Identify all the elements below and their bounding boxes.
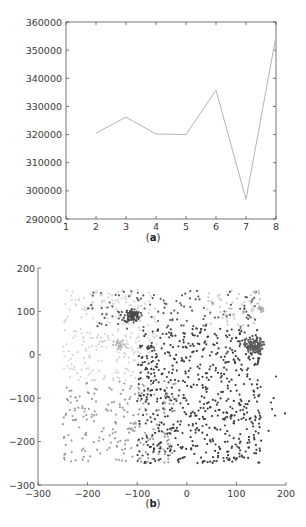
cluster-light-cluster-top-right [257,305,264,313]
y-tick-label: 300000 [26,185,62,196]
x-tick-label: 3 [123,221,129,232]
y-tick-label: −100 [9,393,35,404]
line-chart-plot: 1234567829000030000031000032000033000034… [0,0,306,232]
caption-a-letter: a [150,232,157,243]
x-tick-label: 5 [183,221,189,232]
y-tick-label: 320000 [26,129,62,140]
cluster-light-cluster-left [112,339,128,350]
scatter-chart-plot: −300−200−1000100200−300−200−1000100200 [0,250,306,505]
cluster-dark-center [136,328,262,465]
y-tick-label: 310000 [26,157,62,168]
x-tick-label: 1 [63,221,69,232]
cluster-outliers-right [268,375,287,432]
caption-b: (b) [0,498,306,509]
y-tick-label: 100 [17,306,35,317]
x-tick-label: 8 [273,221,279,232]
y-tick-label: 360000 [26,17,62,28]
x-tick-label: 6 [213,221,219,232]
y-tick-label: 200 [17,263,35,274]
line-series [96,36,276,199]
caption-b-letter: b [149,498,156,509]
scatter-chart-b: −300−200−1000100200−300−200−1000100200 (… [0,250,306,527]
x-tick-label: 4 [153,221,159,232]
y-tick-label: 330000 [26,101,62,112]
y-tick-label: 0 [29,349,35,360]
y-tick-label: −300 [9,480,35,491]
x-tick-label: 7 [243,221,249,232]
y-tick-label: 290000 [26,214,62,225]
y-tick-label: 350000 [26,45,62,56]
y-tick-label: −200 [9,436,35,447]
caption-a: (a) [0,232,306,243]
scatter-points [62,289,286,465]
line-chart-a: 1234567829000030000031000032000033000034… [0,0,306,250]
plot-frame [66,22,276,219]
y-tick-label: 340000 [26,73,62,84]
cluster-light-upper-right [207,290,262,330]
x-tick-label: 2 [93,221,99,232]
